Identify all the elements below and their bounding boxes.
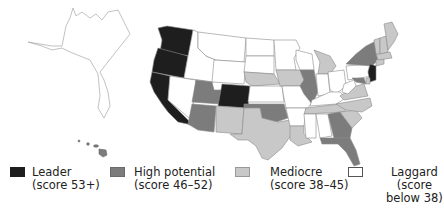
state-sd [244, 56, 274, 74]
state-fl [320, 138, 360, 166]
state-ks [248, 86, 284, 102]
state-mi [314, 50, 336, 74]
state-az [188, 104, 216, 132]
state-ms [304, 114, 316, 138]
legend-label-leader: Leader (score 53+) [32, 166, 100, 192]
state-hi [78, 140, 107, 157]
us-choropleth-map [0, 0, 444, 170]
legend-swatch-laggard [348, 167, 363, 177]
state-ut [192, 80, 222, 104]
state-wy [212, 60, 246, 84]
legend-label-high-potential: High potential (score 46–52) [134, 166, 215, 192]
state-ny [346, 42, 378, 66]
state-ak [28, 8, 130, 118]
legend-swatch-mediocre [235, 167, 250, 177]
state-ia [276, 70, 304, 86]
legend-swatch-high-potential [110, 167, 125, 177]
legend-label-mediocre: Mediocre (score 38–45) [270, 166, 349, 192]
state-wi [296, 50, 314, 70]
legend-label-laggard: Laggard (score below 38) [386, 166, 443, 205]
state-ne [244, 72, 280, 86]
state-nm [216, 106, 244, 134]
state-nd [246, 38, 274, 56]
state-de [366, 78, 370, 84]
legend-swatch-leader [10, 167, 25, 177]
